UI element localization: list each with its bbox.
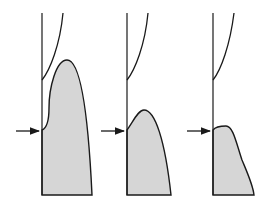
shaded-profile bbox=[42, 60, 92, 195]
diagram-canvas bbox=[0, 0, 273, 207]
upper-curve bbox=[127, 13, 148, 80]
shaded-profile bbox=[213, 126, 254, 195]
panel-3 bbox=[187, 13, 254, 195]
upper-curve bbox=[213, 13, 234, 80]
panel-1 bbox=[16, 13, 92, 195]
panel-2 bbox=[101, 13, 171, 195]
